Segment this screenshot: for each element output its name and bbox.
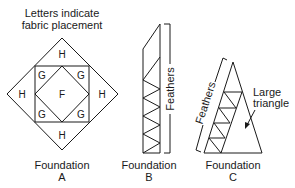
foundation-c-letter: C xyxy=(229,171,237,183)
piece-g-bottom-left: G xyxy=(38,109,46,120)
callout-arrow-head-icon xyxy=(245,122,250,129)
feathers-bracket-c-bottom xyxy=(196,125,203,152)
foundation-c-title: Foundation xyxy=(205,159,260,171)
piece-g-bottom-right: G xyxy=(77,109,85,120)
piece-g-top-right: G xyxy=(77,70,85,81)
callout-triangle: triangle xyxy=(253,97,289,109)
foundation-a-letter: A xyxy=(58,171,66,183)
piece-g-top-left: G xyxy=(38,70,46,81)
feathers-bracket-c-top xyxy=(215,58,227,82)
feathers-bracket-top xyxy=(164,24,170,64)
piece-h-top: H xyxy=(58,49,65,60)
quilt-foundation-diagram: Letters indicate fabric placement H H H … xyxy=(0,0,295,188)
callout-arrow-line xyxy=(247,110,255,125)
piece-f-center: F xyxy=(59,89,65,100)
piece-h-left: H xyxy=(18,89,25,100)
foundation-b-outline xyxy=(143,24,160,153)
piece-h-bottom: H xyxy=(58,130,65,141)
header-line-1: Letters indicate xyxy=(25,7,100,19)
feathers-bracket-bottom xyxy=(164,114,170,153)
foundation-b-title: Foundation xyxy=(121,159,176,171)
feathers-label-b: Feathers xyxy=(164,67,176,111)
foundation-b-letter: B xyxy=(145,171,152,183)
feathers-label-c: Feathers xyxy=(193,80,218,125)
foundation-a-title: Foundation xyxy=(34,159,89,171)
header-line-2: fabric placement xyxy=(22,19,103,31)
piece-h-right: H xyxy=(98,89,105,100)
